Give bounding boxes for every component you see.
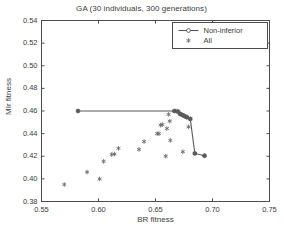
legend-marker-non-inferior [187,29,191,33]
data-point-all [117,146,120,150]
x-tick-label: 0.65 [136,205,176,214]
data-point-all [137,148,140,152]
data-point-all [85,170,88,174]
data-point-all [187,125,190,129]
y-tick-label: 0.42 [8,151,38,160]
y-tick-label: 0.52 [8,38,38,47]
y-axis-label: MIr fitness [4,65,13,129]
y-tick-label: 0.50 [8,61,38,70]
x-axis-label: BR fitness [41,215,270,224]
data-point-non-inferior [193,152,197,156]
y-tick-label: 0.46 [8,106,38,115]
x-tick-label: 0.75 [250,205,284,214]
scatter-plot-canvas [0,0,283,232]
data-point-all [165,127,168,131]
data-point-all [167,112,170,116]
data-point-all [168,119,171,123]
y-tick-label: 0.40 [8,174,38,183]
data-point-all [98,177,101,181]
x-tick-label: 0.60 [79,205,119,214]
data-point-all [181,150,184,154]
data-point-all [142,140,145,144]
data-point-non-inferior [188,117,192,121]
y-tick-label: 0.54 [8,16,38,25]
legend-label-all: All [204,36,212,45]
data-point-non-inferior [203,154,207,158]
x-tick-label: 0.55 [22,205,62,214]
data-point-non-inferior [76,109,80,113]
y-tick-label: 0.44 [8,129,38,138]
data-point-all [169,139,172,143]
data-point-all [102,159,105,163]
legend-label-non-inferior: Non-inferior [204,26,243,35]
y-tick-label: 0.48 [8,83,38,92]
chart-figure: GA (30 individuals, 300 generations) MIr… [0,0,283,232]
data-point-all [164,154,167,158]
data-point-all [63,183,66,187]
x-tick-label: 0.70 [193,205,233,214]
y-tick-label: 0.38 [8,197,38,206]
